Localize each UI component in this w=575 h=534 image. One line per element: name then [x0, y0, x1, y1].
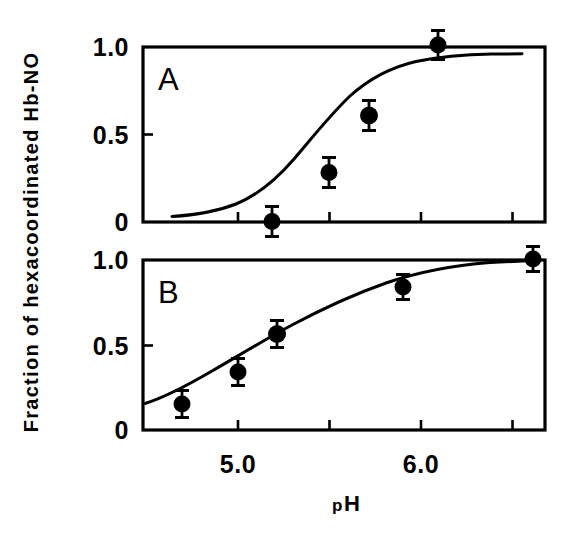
- x-axis-title-main: H: [344, 491, 360, 516]
- panel-b-marker-4: [395, 279, 412, 296]
- panel-b-datapoint-1: [174, 390, 191, 418]
- panel-b-ylabel-0.5: 0.5: [93, 332, 129, 360]
- panel-b-datapoint-3: [268, 320, 286, 348]
- panel-a-ylabel-0: 0: [115, 208, 129, 236]
- panel-a-ylabel-1.0: 1.0: [93, 33, 129, 61]
- panel-b-marker-2: [230, 364, 247, 381]
- panel-b-ylabel-0: 0: [115, 416, 129, 444]
- panel-a-ylabel-0.5: 0.5: [93, 121, 129, 149]
- panel-a-datapoint-1: [264, 206, 281, 237]
- panel-a-datapoint-2: [321, 157, 338, 188]
- panel-b-datapoint-5: [525, 246, 542, 272]
- x-axis-title: p H: [332, 491, 360, 516]
- panel-a-datapoint-3: [360, 100, 378, 131]
- panel-b-marker-1: [174, 396, 191, 413]
- x-axis-title-prefix: p: [332, 496, 342, 515]
- panel-b: B 1.0 0.5 0: [93, 246, 545, 444]
- panel-a-marker-4: [430, 37, 447, 54]
- panel-a-fit-curve: [172, 54, 522, 217]
- panel-a-marker-1: [264, 213, 281, 230]
- xtick-label-6.0: 6.0: [403, 450, 439, 478]
- xtick-label-5.0: 5.0: [220, 450, 256, 478]
- figure-container: A 1.0 0.5 0: [0, 0, 575, 534]
- panel-b-marker-3: [268, 325, 286, 343]
- panel-b-letter: B: [158, 275, 179, 310]
- panel-b-fit-curve: [145, 261, 533, 404]
- panel-b-marker-5: [525, 251, 542, 268]
- panel-b-axis-frame: [143, 260, 545, 430]
- panel-a-marker-2: [321, 164, 338, 181]
- y-axis-title: Fraction of hexacoordinated Hb-NO: [20, 52, 42, 433]
- panel-b-ylabel-1.0: 1.0: [93, 246, 129, 274]
- panel-a-letter: A: [158, 62, 179, 97]
- chart-svg: A 1.0 0.5 0: [0, 0, 575, 534]
- panel-a: A 1.0 0.5 0: [93, 30, 545, 237]
- panel-a-axis-frame: [143, 47, 545, 222]
- panel-b-datapoint-2: [230, 358, 247, 386]
- panel-a-datapoint-4: [430, 30, 447, 60]
- panel-a-marker-3: [360, 107, 378, 125]
